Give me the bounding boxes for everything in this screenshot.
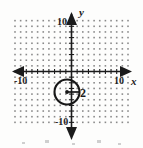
grid-dot [65, 88, 67, 90]
grid-dot [48, 42, 50, 44]
grid-dot [14, 88, 16, 90]
grid-dot [20, 48, 22, 50]
grid-dot [54, 82, 56, 84]
grid-dot [26, 37, 28, 39]
grid-dot [42, 110, 44, 112]
grid-dot [48, 82, 50, 84]
grid-dot [48, 26, 50, 28]
grid-dot [54, 48, 56, 50]
grid-dot [88, 122, 90, 124]
grid-dot [88, 42, 90, 44]
grid-dot [116, 48, 118, 50]
grid-dot [65, 48, 67, 50]
grid-dot [88, 116, 90, 118]
grid-dot [54, 65, 56, 67]
grid-dot [20, 59, 22, 61]
grid-dot [37, 54, 39, 56]
grid-dot [122, 93, 124, 95]
grid-dot [31, 93, 33, 95]
grid-dot [26, 93, 28, 95]
grid-dot [105, 82, 107, 84]
coordinate-plane-svg: y 10 -10 10 x -10 2 [0, 0, 143, 148]
grid-dot [54, 37, 56, 39]
grid-dot [20, 93, 22, 95]
grid-dot [31, 37, 33, 39]
grid-dot [122, 122, 124, 124]
grid-dot [42, 37, 44, 39]
grid-dot [59, 99, 61, 101]
grid-dot [99, 59, 101, 61]
grid-dot [82, 26, 84, 28]
grid-dot [54, 59, 56, 61]
grid-dot [116, 65, 118, 67]
grid-dot [20, 65, 22, 67]
grid-dot [42, 82, 44, 84]
grid-dot [26, 99, 28, 101]
grid-dot [93, 122, 95, 124]
y-axis-label: y [77, 6, 84, 18]
grid-dot [105, 48, 107, 50]
grid-dot [26, 31, 28, 33]
grid-dot [26, 59, 28, 61]
grid-dot [31, 42, 33, 44]
grid-dot [42, 42, 44, 44]
grid-dot [76, 48, 78, 50]
grid-dot [65, 110, 67, 112]
grid-dot [42, 59, 44, 61]
grid-dot [20, 37, 22, 39]
grid-dot [116, 116, 118, 118]
x-axis-label: x [130, 75, 137, 87]
grid-dot [93, 82, 95, 84]
grid-dot [42, 26, 44, 28]
grid-dot [127, 31, 129, 33]
grid-dot [110, 54, 112, 56]
grid-dot [122, 105, 124, 107]
grid-dot [20, 122, 22, 124]
grid-dot [31, 99, 33, 101]
grid-dot [42, 76, 44, 78]
grid-dot [93, 26, 95, 28]
grid-dot [110, 122, 112, 124]
grid-dot [31, 122, 33, 124]
grid-dot [48, 110, 50, 112]
grid-dot [20, 99, 22, 101]
grid-dot [88, 37, 90, 39]
grid-dot [37, 116, 39, 118]
grid-dot [116, 26, 118, 28]
grid-dot [99, 99, 101, 101]
grid-dot [14, 122, 16, 124]
grid-dot [93, 105, 95, 107]
grid-dot [54, 20, 56, 22]
grid-dot [37, 65, 39, 67]
grid-dot [54, 105, 56, 107]
grid-dot [88, 99, 90, 101]
grid-dot [26, 88, 28, 90]
grid-dot [59, 31, 61, 33]
grid-dot [31, 54, 33, 56]
grid-dot [105, 88, 107, 90]
grid-dot [14, 42, 16, 44]
grid-dot [122, 110, 124, 112]
grid-dot [42, 122, 44, 124]
grid-dot [127, 99, 129, 101]
grid-dot [76, 110, 78, 112]
grid-dot [59, 54, 61, 56]
grid-dot [99, 82, 101, 84]
grid-dot [122, 59, 124, 61]
grid-dot [76, 93, 78, 95]
grid-dot [116, 88, 118, 90]
grid-dot [88, 82, 90, 84]
grid-dot [42, 88, 44, 90]
grid-dot [76, 31, 78, 33]
grid-dot [76, 37, 78, 39]
grid-dot [59, 76, 61, 78]
grid-dot [93, 48, 95, 50]
x-max-tick-label: 10 [114, 75, 124, 86]
grid-dot [59, 59, 61, 61]
grid-dot [93, 42, 95, 44]
grid-dot [14, 26, 16, 28]
grid-dot [105, 20, 107, 22]
y-min-tick-label: -10 [55, 116, 68, 127]
grid-dot [99, 116, 101, 118]
grid-dot [127, 20, 129, 22]
